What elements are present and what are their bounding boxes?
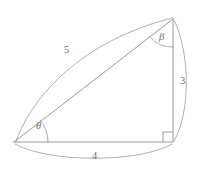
triangle-svg	[0, 0, 203, 172]
angle-arc-theta	[40, 120, 48, 142]
side-label-vertical-leg: 3	[180, 76, 185, 87]
side-label-hypotenuse: 5	[64, 45, 69, 56]
geometry-figure: 5 3 4 θ β	[0, 0, 203, 172]
right-angle-marker	[163, 132, 173, 142]
angle-label-beta: β	[159, 32, 164, 43]
side-label-base: 4	[92, 151, 97, 162]
angle-label-theta: θ	[36, 121, 41, 132]
